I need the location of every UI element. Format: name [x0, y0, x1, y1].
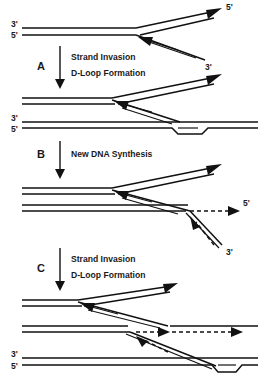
panel3-leading-arrowhead: [206, 164, 222, 175]
step-a: A Strand Invasion D-Loop Formation: [37, 46, 145, 89]
panel3-invading-strand-tail-pair: [186, 213, 219, 248]
label-5prime-left-bottom: 5': [11, 30, 18, 40]
lagging-strand-backbone: [146, 41, 196, 58]
new-dna-rightward-arrowhead: [228, 206, 240, 216]
panel4-new-dna-arrowhead-b: [231, 327, 243, 337]
panel2-invading-arrowhead: [114, 101, 129, 110]
panel4-bottom-duplex-dloop: [22, 365, 258, 372]
panel4-new-dna-arrowhead-a: [158, 327, 170, 337]
panel-after-c: 3' 5': [11, 283, 258, 372]
label-3prime-left-top: 3': [11, 19, 18, 29]
label-3prime-recipient-top: 3': [11, 113, 18, 123]
leading-strand-template: [136, 11, 216, 28]
step-c-line-2: D-Loop Formation: [71, 270, 145, 280]
panel4-invading-strand-2-pair: [126, 334, 212, 369]
step-b-line-1: New DNA Synthesis: [71, 149, 153, 159]
dna-recombination-diagram: 3' 5' 5' 3' A Strand Invasion D-Loop For…: [0, 0, 266, 388]
step-c-letter: C: [37, 262, 45, 274]
panel-after-b: 5' 3': [22, 164, 250, 257]
leading-strand-arrowhead: [206, 8, 222, 19]
recipient-duplex-bottom-strand-dloop: [22, 128, 258, 134]
panel4-invading-strand-2: [130, 332, 216, 366]
label-5prime-upper-branch: 5': [226, 2, 233, 12]
panel4-leading-template: [78, 286, 172, 300]
leading-strand-new: [140, 18, 214, 35]
label-3prime-bottom-top: 3': [11, 349, 18, 359]
label-5prime-bottom-bottom: 5': [11, 361, 18, 371]
step-a-line-2: D-Loop Formation: [71, 68, 145, 78]
step-a-letter: A: [37, 60, 45, 72]
diagram-canvas: 3' 5' 5' 3' A Strand Invasion D-Loop For…: [0, 0, 266, 388]
step-b-arrow-head: [55, 169, 65, 179]
panel2-leading-arrowhead: [206, 74, 222, 85]
step-a-line-1: Strand Invasion: [71, 52, 135, 62]
step-a-arrow-head: [55, 79, 65, 89]
label-5prime-recipient-bottom: 5': [11, 124, 18, 134]
step-b: B New DNA Synthesis: [37, 141, 153, 179]
panel4-leading-arrowhead: [163, 283, 178, 293]
label-5prime-new-dna: 5': [243, 198, 250, 208]
step-c-arrow-head: [55, 281, 65, 291]
lagging-strand-arrowhead: [138, 37, 153, 46]
step-c: C Strand Invasion D-Loop Formation: [37, 248, 145, 291]
label-3prime-invading: 3': [226, 247, 233, 257]
label-3prime-lower-branch: 3': [205, 62, 212, 72]
step-b-letter: B: [37, 148, 45, 160]
panel3-invading-arrowhead: [114, 191, 129, 200]
step-c-line-1: Strand Invasion: [71, 254, 135, 264]
panel4-leading-new: [84, 292, 170, 306]
panel-after-a: 3' 5': [11, 74, 258, 134]
